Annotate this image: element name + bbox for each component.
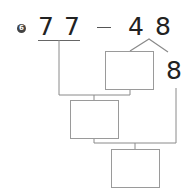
answer-box-2[interactable] [70, 100, 119, 139]
connector-lines [0, 0, 190, 193]
answer-box-3[interactable] [111, 149, 160, 188]
split-part-digit: 8 [166, 58, 182, 83]
answer-box-1[interactable] [105, 51, 154, 90]
